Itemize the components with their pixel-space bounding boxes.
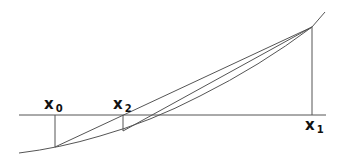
label-x2-sub: 2: [125, 103, 132, 114]
label-x0-sub: 0: [56, 103, 63, 114]
function-curve: [19, 12, 325, 153]
label-x2-base: x: [113, 95, 123, 113]
label-x1-base: x: [305, 116, 315, 134]
label-x0: x0: [44, 97, 63, 114]
secant-line-x0-x1: [55, 27, 312, 147]
label-x1: x1: [305, 118, 324, 135]
label-x0-base: x: [44, 95, 54, 113]
diagram-graphics: [0, 0, 337, 160]
label-x1-sub: 1: [317, 124, 324, 135]
label-x2: x2: [113, 97, 132, 114]
secant-method-diagram: x0 x2 x1: [0, 0, 337, 160]
